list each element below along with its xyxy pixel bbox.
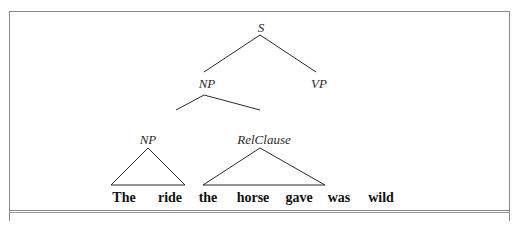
node-s: S (258, 21, 265, 34)
word-ride: ride (158, 191, 182, 205)
edge-np-relclause (204, 95, 260, 110)
word-wild: wild (368, 191, 394, 205)
triangle-np (111, 148, 185, 185)
triangle-relclause (203, 148, 325, 185)
node-relclause: RelClause (237, 133, 290, 146)
edge-s-np (204, 35, 260, 72)
node-vp: VP (311, 77, 327, 90)
edge-np-np (176, 95, 204, 110)
word-was: was (328, 191, 351, 205)
word-the-1: The (112, 191, 135, 205)
node-np-top: NP (199, 77, 216, 90)
word-the-2: the (199, 191, 218, 205)
node-np-inner: NP (140, 133, 157, 146)
word-horse: horse (237, 191, 270, 205)
word-gave: gave (285, 191, 312, 205)
edge-s-vp (260, 35, 316, 72)
